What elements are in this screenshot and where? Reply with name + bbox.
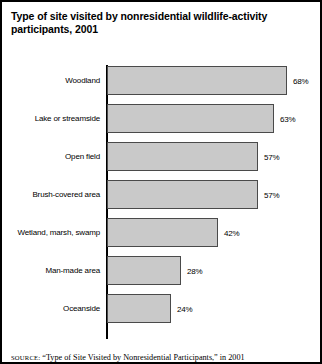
bar (107, 104, 274, 133)
bar-chart: Woodland68%Lake or streamside63%Open fie… (2, 62, 320, 340)
bar-value-label: 57% (264, 190, 280, 199)
bar (107, 142, 258, 171)
bar-row: Oceanside24% (2, 294, 320, 323)
bar-category-label: Open field (2, 152, 100, 162)
bar-value-label: 28% (187, 266, 203, 275)
page-title: Type of site visited by nonresidential w… (11, 10, 301, 36)
bar-category-label: Oceanside (2, 304, 100, 314)
bar-row: Open field57% (2, 142, 320, 171)
bar-value-label: 63% (280, 114, 296, 123)
bar (107, 66, 287, 95)
bar-row: Man-made area28% (2, 256, 320, 285)
source-text: “Type of Site Visited by Nonresidential … (40, 353, 244, 362)
bar-value-label: 57% (264, 152, 280, 161)
bar-row: Woodland68% (2, 66, 320, 95)
bar-category-label: Man-made area (2, 266, 100, 276)
bar (107, 180, 258, 209)
bar-row: Wetland, marsh, swamp42% (2, 218, 320, 247)
figure-panel: Type of site visited by nonresidential w… (0, 0, 322, 364)
bar-row: Lake or streamside63% (2, 104, 320, 133)
source-note: SOURCE: “Type of Site Visited by Nonresi… (11, 353, 315, 363)
bar (107, 218, 218, 247)
bar-category-label: Brush-covered area (2, 190, 100, 200)
bar-category-label: Lake or streamside (2, 114, 100, 124)
bar-category-label: Woodland (2, 76, 100, 86)
bar (107, 294, 171, 323)
bar (107, 256, 181, 285)
bar-row: Brush-covered area57% (2, 180, 320, 209)
bar-category-label: Wetland, marsh, swamp (2, 228, 100, 238)
bar-value-label: 24% (177, 304, 193, 313)
bar-value-label: 68% (293, 76, 309, 85)
source-label: SOURCE: (11, 354, 40, 361)
bar-value-label: 42% (224, 228, 240, 237)
